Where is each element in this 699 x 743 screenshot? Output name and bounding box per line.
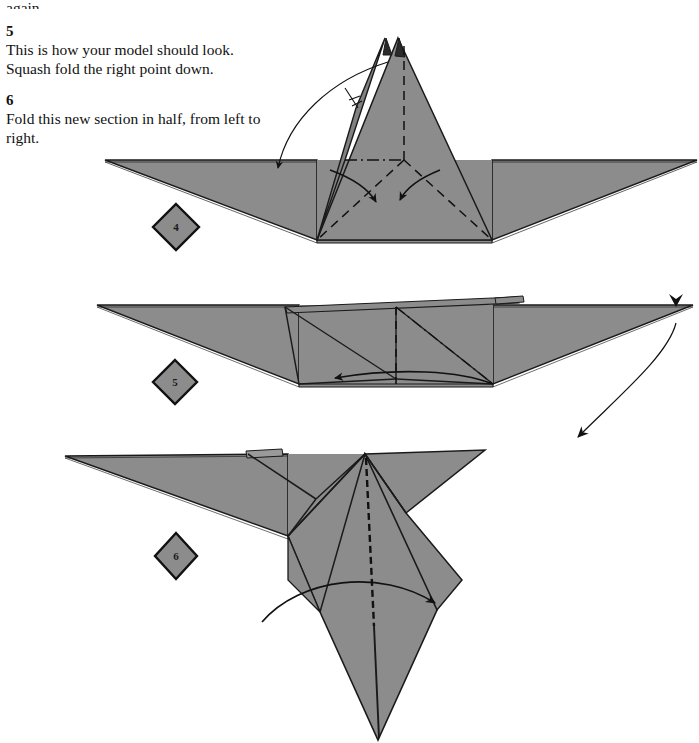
origami-instruction-page: again. 5 This is how your model should l… <box>0 0 699 743</box>
figure-4-diagram: 4 <box>0 0 699 270</box>
step-badge-4: 4 <box>153 204 199 250</box>
step-badge-5-label: 5 <box>172 376 178 388</box>
step-badge-4-label: 4 <box>173 221 179 233</box>
left-wing-shape <box>97 305 299 387</box>
step-badge-5: 5 <box>153 360 197 404</box>
right-wing-shape <box>492 160 697 243</box>
figure-5-diagram: 5 <box>0 285 699 465</box>
step-badge-6-label: 6 <box>173 550 179 562</box>
left-wing-shape <box>105 160 317 243</box>
step-badge-6: 6 <box>155 533 197 579</box>
figure-6-diagram: 6 <box>0 440 699 743</box>
right-wing-shape <box>493 305 693 387</box>
left-wing-shape <box>65 454 288 539</box>
